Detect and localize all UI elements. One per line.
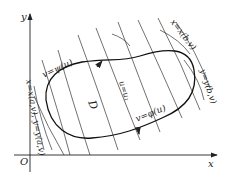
- arrow-upper: [97, 61, 102, 67]
- origin-label: O: [20, 156, 28, 167]
- diagram-canvas: y x O D v=ψ(u) v=φ(u) u=u₁ x=x(a,v), y=y…: [0, 0, 227, 185]
- right-boundary-y-label: y=y(b,v): [198, 67, 219, 106]
- arrow-lower: [138, 128, 139, 134]
- x-axis-label: x: [208, 158, 214, 169]
- region-label: D: [85, 98, 101, 112]
- lower-boundary-label: v=φ(u): [134, 103, 168, 124]
- upper-boundary-label: v=ψ(u): [41, 57, 75, 80]
- y-axis-label: y: [20, 11, 27, 22]
- coordinate-line-label: u=u₁: [117, 80, 132, 102]
